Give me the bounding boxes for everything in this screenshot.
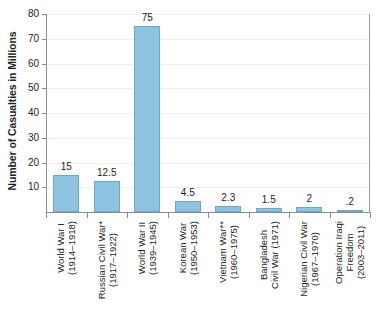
x-category-label: Operation IraqiFreedom(2003–2011) (330, 221, 371, 313)
bar-value-label: 2 (287, 194, 331, 204)
bar (53, 175, 79, 212)
gridline (46, 88, 369, 89)
gridline (46, 138, 369, 139)
bar (256, 208, 282, 212)
bar-value-label: 12.5 (85, 168, 129, 178)
y-tick-label: 30 (0, 133, 39, 143)
gridline (46, 14, 369, 15)
x-category-label-text: Nigerian Civil War(1967–1970) (298, 221, 320, 297)
x-tick-mark (208, 213, 209, 218)
x-tick-mark (46, 213, 47, 218)
bar (134, 26, 160, 212)
x-tick-mark (370, 213, 371, 218)
y-tick-mark (42, 39, 46, 40)
x-category-label-text: Russian Civil War*(1917–1922) (96, 221, 118, 299)
x-category-label-text: World War I(1914–1918) (55, 221, 77, 275)
y-tick-mark (42, 113, 46, 114)
y-tick-mark (42, 14, 46, 15)
y-tick-mark (42, 187, 46, 188)
x-category-label-text: Operation IraqiFreedom(2003–2011) (333, 221, 366, 284)
y-axis-line (46, 14, 47, 213)
x-category-label: World War I(1914–1918) (46, 221, 87, 313)
y-tick-label: 20 (0, 158, 39, 168)
bar-value-label: 4.5 (166, 188, 210, 198)
x-tick-mark (249, 213, 250, 218)
y-tick-label: 70 (0, 34, 39, 44)
x-category-label-text: BangladeshCivil War (1971) (258, 221, 280, 289)
x-category-label-text: Korean War(1950–1953) (177, 221, 199, 275)
y-tick-label: 40 (0, 108, 39, 118)
bar-chart: Number of Casualties in Millions 8070605… (0, 0, 387, 313)
x-tick-mark (87, 213, 88, 218)
y-tick-mark (42, 64, 46, 65)
bar (215, 206, 241, 212)
x-tick-mark (330, 213, 331, 218)
bar (296, 207, 322, 212)
bar-value-label: .2 (328, 197, 372, 207)
y-tick-label: 10 (0, 182, 39, 192)
bar-value-label: 15 (44, 162, 88, 172)
gridline (46, 39, 369, 40)
x-tick-mark (127, 213, 128, 218)
bar (175, 201, 201, 212)
bar-value-label: 2.3 (206, 193, 250, 203)
x-category-label: Nigerian Civil War(1967–1970) (289, 221, 330, 313)
bar-value-label: 1.5 (247, 195, 291, 205)
y-tick-label: 60 (0, 59, 39, 69)
gridline (46, 64, 369, 65)
gridline (46, 163, 369, 164)
y-tick-mark (42, 138, 46, 139)
bar-value-label: 75 (125, 13, 169, 23)
x-tick-mark (168, 213, 169, 218)
x-category-label: Vietnam War**(1960–1975) (208, 221, 249, 313)
bar (94, 181, 120, 212)
x-category-label-text: Vietnam War**(1960–1975) (217, 221, 239, 283)
x-category-label: World War II(1939–1945) (127, 221, 168, 313)
x-category-label: BangladeshCivil War (1971) (249, 221, 290, 313)
x-category-label: Korean War(1950–1953) (168, 221, 209, 313)
y-tick-mark (42, 88, 46, 89)
y-tick-label: 50 (0, 83, 39, 93)
x-category-label-text: World War II(1939–1945) (136, 221, 158, 275)
bar (337, 210, 363, 212)
x-tick-mark (289, 213, 290, 218)
gridline (46, 113, 369, 114)
y-tick-label: 80 (0, 9, 39, 19)
x-category-label: Russian Civil War*(1917–1922) (87, 221, 128, 313)
